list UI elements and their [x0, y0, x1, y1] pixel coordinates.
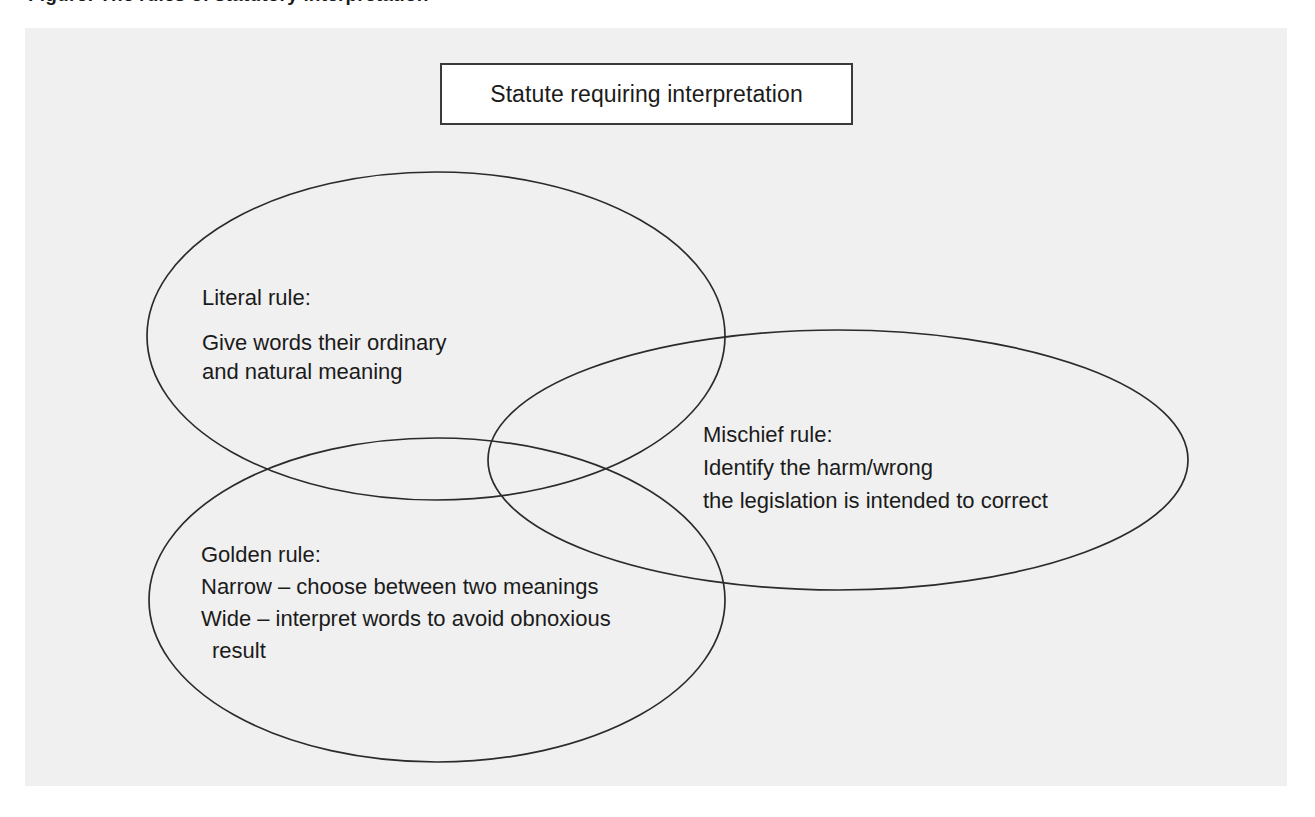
literal-rule-heading: Literal rule: [202, 287, 447, 309]
mischief-rule-line-2: the legislation is intended to correct [703, 490, 1048, 512]
golden-rule-label: Golden rule: Narrow – choose between two… [201, 544, 611, 672]
figure-root: Figure: The rules of statutory interpret… [0, 0, 1315, 817]
mischief-rule-label: Mischief rule: Identify the harm/wrong t… [703, 424, 1048, 523]
literal-rule-line-2: and natural meaning [202, 361, 447, 383]
golden-rule-heading: Golden rule: [201, 544, 611, 566]
statute-title-text: Statute requiring interpretation [490, 81, 803, 108]
statute-title-box[interactable]: Statute requiring interpretation [440, 63, 853, 125]
literal-rule-label: Literal rule: Give words their ordinary … [202, 287, 447, 390]
literal-rule-line-1: Give words their ordinary [202, 332, 447, 354]
golden-rule-line-3: result [201, 640, 611, 662]
mischief-rule-heading: Mischief rule: [703, 424, 1048, 446]
golden-rule-line-2: Wide – interpret words to avoid obnoxiou… [201, 608, 611, 630]
mischief-rule-line-1: Identify the harm/wrong [703, 457, 1048, 479]
golden-rule-line-1: Narrow – choose between two meanings [201, 576, 611, 598]
